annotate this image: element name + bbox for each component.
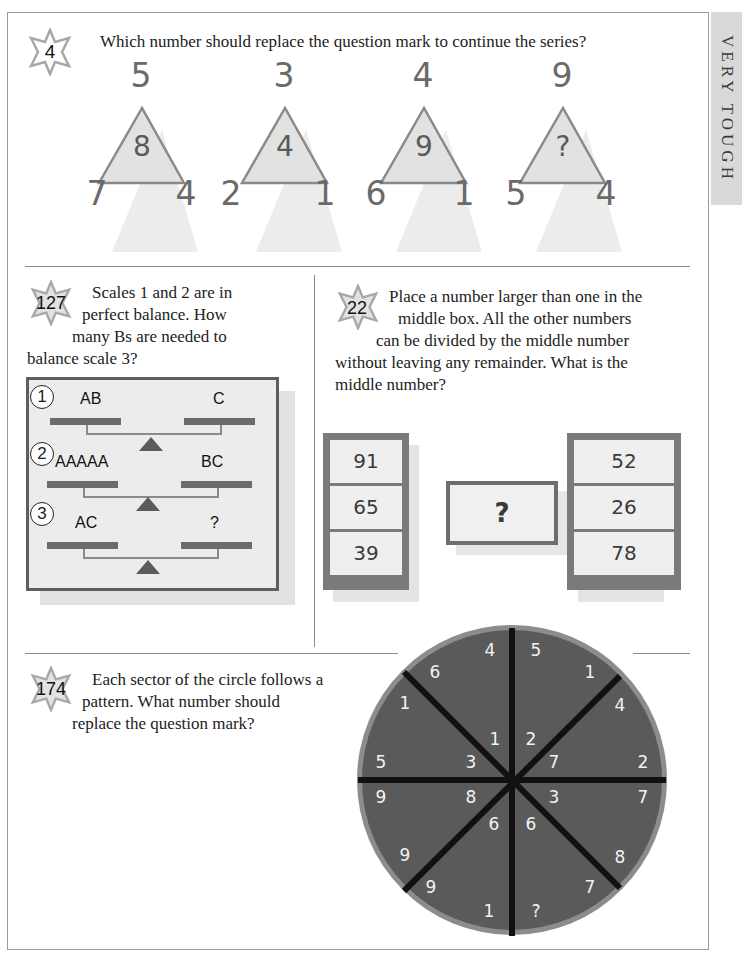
wheel-number: 6: [423, 662, 447, 682]
wheel-number: 2: [519, 729, 543, 749]
wheel-number: 1: [477, 901, 501, 921]
wheel-number: 8: [608, 847, 632, 867]
wheel-number: 5: [369, 752, 393, 772]
wheel-number: 9: [393, 845, 417, 865]
wheel-number: 7: [631, 787, 655, 807]
wheel-number: 3: [542, 787, 566, 807]
number-wheel: [0, 0, 742, 960]
wheel-number: 2: [631, 752, 655, 772]
wheel-number: 7: [542, 752, 566, 772]
wheel-number: 9: [369, 787, 393, 807]
wheel-number: 1: [578, 662, 602, 682]
wheel-number: 5: [524, 640, 548, 660]
wheel-number: 4: [608, 695, 632, 715]
wheel-number: 4: [478, 640, 502, 660]
wheel-number: 1: [483, 729, 507, 749]
wheel-number: ?: [524, 901, 548, 921]
wheel-number: 9: [419, 877, 443, 897]
wheel-number: 7: [578, 877, 602, 897]
wheel-number: 1: [393, 693, 417, 713]
wheel-number: 3: [459, 752, 483, 772]
wheel-number: 6: [482, 814, 506, 834]
wheel-number: 8: [459, 787, 483, 807]
wheel-number: 6: [519, 814, 543, 834]
